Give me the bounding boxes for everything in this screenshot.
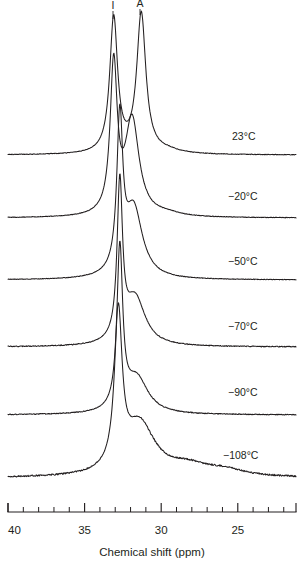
nmr-spectra-figure: I A 23°C −20°C −50°C −70°C −90°C −108°C … <box>0 0 305 567</box>
spectra-plot: I A 23°C −20°C −50°C −70°C −90°C −108°C … <box>0 0 305 567</box>
temperature-label-23C: 23°C <box>232 130 256 142</box>
temperature-label-minus70C: −70°C <box>228 320 258 332</box>
tick-label-35: 35 <box>78 524 91 536</box>
temperature-label-minus50C: −50°C <box>228 255 258 267</box>
temperature-labels: 23°C −20°C −50°C −70°C −90°C −108°C <box>223 130 259 461</box>
temperature-label-minus20C: −20°C <box>228 190 258 202</box>
peak-label-group: I A <box>112 0 144 19</box>
axis-ticks <box>8 503 296 512</box>
tick-label-40: 40 <box>8 524 21 536</box>
axis-title: Chemical shift (ppm) <box>99 546 205 558</box>
tick-label-25: 25 <box>231 524 244 536</box>
tick-label-30: 30 <box>155 524 168 536</box>
temperature-label-minus90C: −90°C <box>228 386 258 398</box>
peak-label-I: I <box>112 0 115 11</box>
temperature-label-minus108C: −108°C <box>223 449 259 461</box>
peak-label-A: A <box>136 0 143 9</box>
x-axis: 40 35 30 25 Chemical shift (ppm) <box>8 503 296 558</box>
spectral-traces <box>8 11 296 477</box>
